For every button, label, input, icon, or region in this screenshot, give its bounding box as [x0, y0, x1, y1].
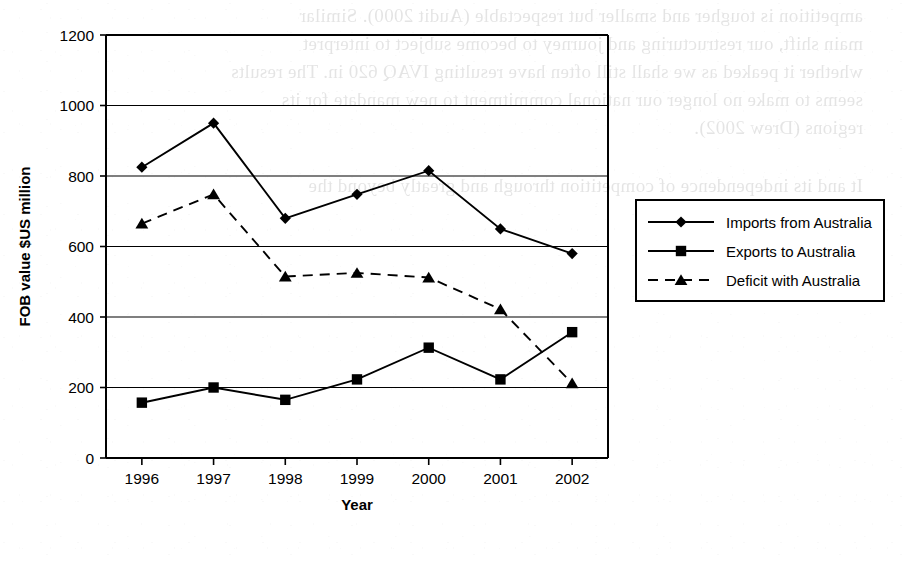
y-axis-tick-label: 200 — [68, 379, 94, 396]
x-axis: 1996199719981999200020012002Year — [125, 458, 590, 513]
y-axis-tick-label: 600 — [68, 238, 94, 255]
x-axis-tick-label: 1997 — [196, 470, 230, 487]
series-line — [142, 332, 572, 403]
marker-triangle — [494, 303, 507, 314]
chart-legend: Imports from AustraliaExports to Austral… — [636, 200, 884, 301]
series-1 — [136, 118, 577, 260]
series-line — [142, 194, 572, 383]
marker-square — [424, 342, 434, 352]
y-axis-tick-label: 800 — [68, 168, 94, 185]
marker-square — [495, 374, 505, 384]
marker-square — [208, 382, 218, 392]
y-axis-tick-label: 400 — [68, 309, 94, 326]
y-axis-tick-label: 1000 — [60, 97, 95, 114]
x-axis-tick-label: 1998 — [268, 470, 302, 487]
x-axis-title: Year — [341, 496, 373, 513]
marker-square-legend — [676, 246, 686, 256]
x-axis-tick-label: 2002 — [555, 470, 589, 487]
chart-canvas: 0200400600800100012001996199719981999200… — [0, 0, 903, 562]
x-axis-tick-label: 1999 — [340, 470, 374, 487]
y-axis-tick-label: 0 — [85, 450, 94, 467]
x-axis-tick-label: 2000 — [411, 470, 446, 487]
y-axis-title: FOB value $US million — [16, 166, 33, 326]
line-chart-figure: 0200400600800100012001996199719981999200… — [0, 0, 903, 562]
legend-item-label: Exports to Australia — [726, 243, 856, 260]
marker-diamond — [136, 162, 147, 173]
marker-triangle — [135, 218, 148, 229]
marker-triangle — [207, 189, 220, 200]
x-axis-tick-label: 1996 — [125, 470, 159, 487]
legend-item-label: Deficit with Australia — [726, 272, 861, 289]
series-line — [142, 123, 572, 254]
marker-square — [280, 395, 290, 405]
y-axis-tick-label: 1200 — [60, 27, 95, 44]
marker-square — [352, 374, 362, 384]
marker-diamond — [567, 248, 578, 259]
marker-diamond — [351, 189, 362, 200]
legend-item-label: Imports from Australia — [726, 214, 873, 231]
series-3 — [135, 189, 578, 389]
x-axis-tick-label: 2001 — [483, 470, 517, 487]
marker-square — [567, 327, 577, 337]
marker-square — [137, 397, 147, 407]
series-2 — [137, 327, 578, 408]
marker-triangle — [566, 377, 579, 388]
